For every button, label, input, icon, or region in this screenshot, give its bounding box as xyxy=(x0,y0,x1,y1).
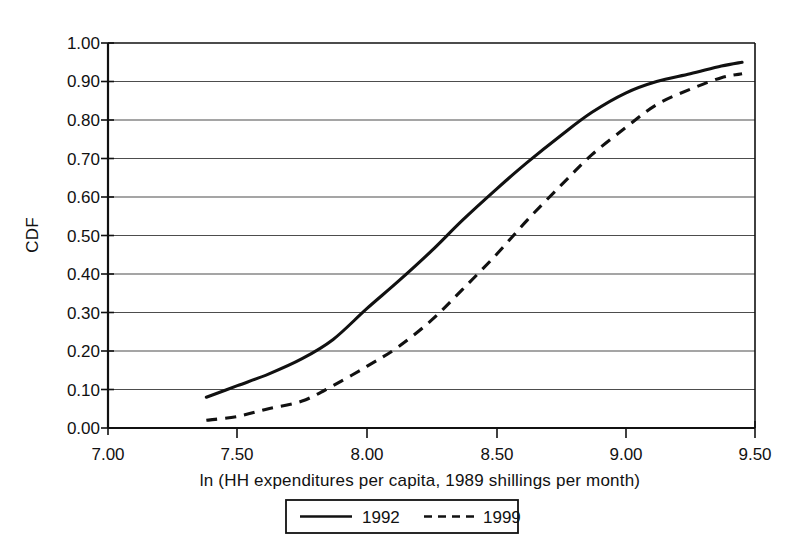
x-tick-label: 8.00 xyxy=(350,445,383,464)
x-tick-label: 7.50 xyxy=(220,445,253,464)
legend-label-1999: 1999 xyxy=(483,508,521,527)
y-tick-label: 0.60 xyxy=(67,188,100,207)
y-tick-label: 0.30 xyxy=(67,304,100,323)
legend-label-1992: 1992 xyxy=(362,508,400,527)
y-tick-label: 1.00 xyxy=(67,34,100,53)
y-tick-label: 0.80 xyxy=(67,111,100,130)
y-axis-title-text: CDF xyxy=(23,217,42,253)
x-axis-title: ln (HH expenditures per capita, 1989 shi… xyxy=(200,471,640,490)
x-tick-label: 7.00 xyxy=(91,445,124,464)
x-tick-label: 9.50 xyxy=(738,445,771,464)
series-line-1999 xyxy=(206,74,742,421)
chart-svg: CDF 1.00 0.90 0.80 0.70 0.60 0.50 0.40 0… xyxy=(0,0,800,551)
series-line-1992 xyxy=(206,62,742,397)
x-tick-label: 9.00 xyxy=(609,445,642,464)
data-series-group xyxy=(206,62,742,420)
y-axis-title: CDF xyxy=(23,217,42,253)
y-tick-label: 0.70 xyxy=(67,150,100,169)
y-tick-label: 0.40 xyxy=(67,265,100,284)
y-tick-label: 0.50 xyxy=(67,227,100,246)
cdf-chart-figure: CDF 1.00 0.90 0.80 0.70 0.60 0.50 0.40 0… xyxy=(0,0,800,551)
y-tick-label: 0.10 xyxy=(67,381,100,400)
x-tick-labels: 7.00 7.50 8.00 8.50 9.00 9.50 xyxy=(91,445,771,464)
y-tick-label: 0.00 xyxy=(67,419,100,438)
x-tick-label: 8.50 xyxy=(480,445,513,464)
y-tick-labels: 1.00 0.90 0.80 0.70 0.60 0.50 0.40 0.30 … xyxy=(67,34,100,438)
gridlines xyxy=(108,82,755,390)
chart-legend: 1992 1999 xyxy=(286,500,521,533)
y-tick-label: 0.90 xyxy=(67,72,100,91)
x-tick-marks xyxy=(108,421,755,438)
y-tick-label: 0.20 xyxy=(67,342,100,361)
